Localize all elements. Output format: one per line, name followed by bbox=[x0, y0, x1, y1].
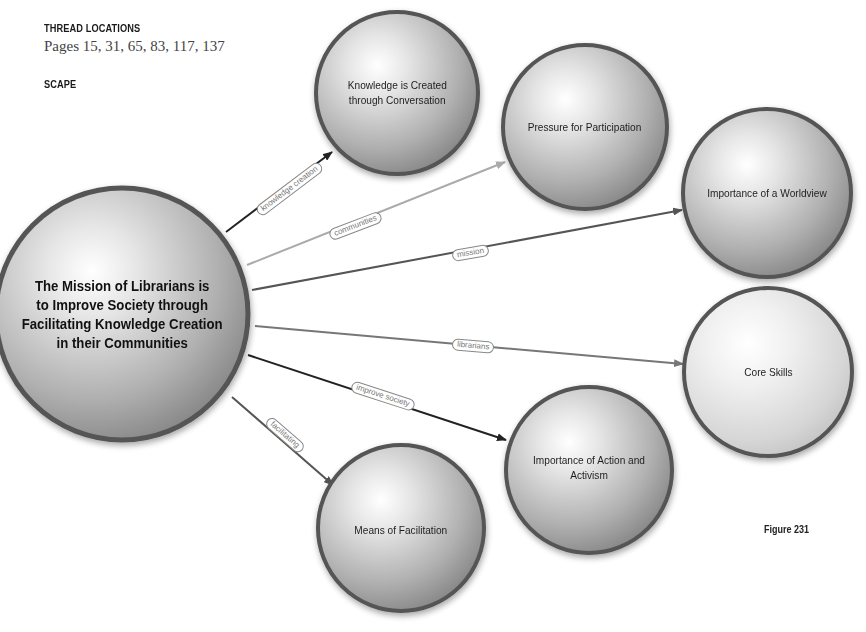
node-knowledge-circle[interactable] bbox=[316, 12, 478, 174]
node-means-circle[interactable] bbox=[318, 445, 484, 611]
figure-caption: Figure 231 bbox=[764, 524, 809, 535]
node-pressure-circle[interactable] bbox=[503, 45, 667, 209]
node-worldview-circle[interactable] bbox=[683, 109, 851, 277]
node-action-circle[interactable] bbox=[506, 387, 672, 553]
node-skills-circle[interactable] bbox=[684, 288, 852, 456]
concept-map bbox=[0, 0, 866, 632]
central-node-circle[interactable] bbox=[0, 188, 248, 440]
